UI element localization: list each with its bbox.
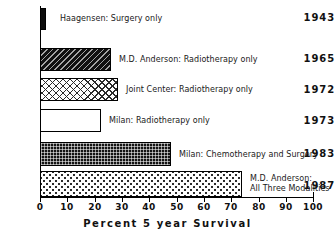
x-tick-label-90: 90: [279, 202, 292, 212]
bar-annotation-1973: Milan: Radiotherapy only: [109, 116, 210, 126]
bar-annotation-1987-line1: M.D. Anderson:: [250, 174, 312, 184]
x-tick-label-60: 60: [197, 202, 210, 212]
bar-1983: [40, 142, 171, 166]
bar-1973: [40, 109, 101, 132]
bar-chart: 1943 Haagensen: Surgery only 1965 M.D. A…: [0, 0, 335, 239]
bar-1965: [40, 48, 111, 71]
bar-1972: [40, 78, 118, 101]
y-axis-line: [40, 6, 41, 198]
x-tick-label-0: 0: [37, 202, 44, 212]
bar-1987: [40, 171, 242, 197]
bar-annotation-1965: M.D. Anderson: Radiotherapy only: [119, 55, 258, 65]
category-label-1943: 1943: [297, 12, 335, 23]
x-axis-title: Percent 5 year Survival: [0, 218, 335, 229]
bar-annotation-1972: Joint Center: Radiotherapy only: [126, 85, 253, 95]
category-label-1972: 1972: [297, 84, 335, 95]
x-tick-label-70: 70: [224, 202, 237, 212]
bar-annotation-1943: Haagensen: Surgery only: [60, 14, 162, 24]
x-tick-label-10: 10: [60, 202, 73, 212]
category-label-1965: 1965: [297, 53, 335, 64]
category-label-1973: 1973: [297, 115, 335, 126]
x-tick-label-30: 30: [115, 202, 128, 212]
x-tick-label-40: 40: [142, 202, 155, 212]
bar-annotation-1987-line2: All Three Modalities: [250, 184, 330, 194]
bar-annotation-1983: Milan: Chemotherapy and Surgery: [179, 150, 318, 160]
x-tick-label-80: 80: [252, 202, 265, 212]
x-tick-label-100: 100: [303, 202, 323, 212]
x-tick-label-50: 50: [170, 202, 183, 212]
x-tick-label-20: 20: [88, 202, 101, 212]
